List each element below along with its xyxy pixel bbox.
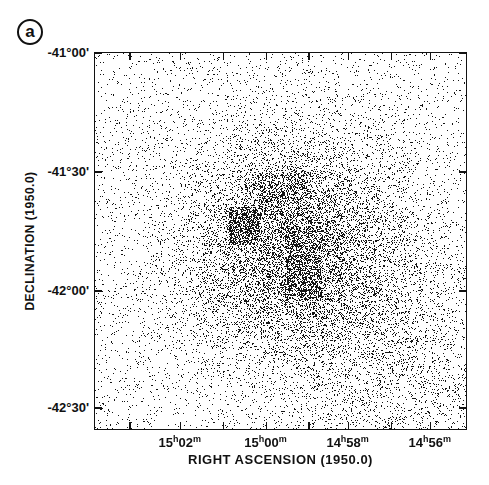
x-tick-mark	[430, 52, 432, 60]
y-tick-mark	[94, 171, 102, 173]
x-tick-mark	[348, 52, 350, 60]
x-tick-mark	[391, 422, 393, 430]
x-tick-mark	[308, 422, 310, 430]
y-tick-label: -41°30'	[47, 164, 89, 179]
x-tick-label: 15h00m	[244, 434, 286, 450]
x-tick-mark	[430, 422, 432, 430]
x-axis-label: RIGHT ASCENSION (1950.0)	[94, 452, 467, 467]
x-tick-mark	[266, 422, 268, 430]
x-tick-mark	[129, 52, 131, 60]
y-tick-mark	[94, 407, 102, 409]
x-tick-mark	[180, 52, 182, 60]
x-tick-mark	[223, 422, 225, 430]
y-tick-mark	[459, 52, 467, 54]
x-tick-mark	[266, 52, 268, 60]
y-tick-mark	[459, 290, 467, 292]
x-tick-label: 14h56m	[408, 434, 450, 450]
y-tick-label: -42°00'	[47, 283, 89, 298]
y-tick-mark	[459, 171, 467, 173]
point-source-density-map	[94, 52, 467, 430]
x-tick-mark	[308, 52, 310, 60]
panel-label: a	[17, 19, 43, 45]
x-tick-mark	[180, 422, 182, 430]
y-tick-mark	[94, 52, 102, 54]
x-tick-label: 14h58m	[326, 434, 368, 450]
y-tick-mark	[459, 407, 467, 409]
x-tick-label: 15h02m	[159, 434, 201, 450]
y-tick-label: -41°00'	[47, 45, 89, 60]
x-tick-mark	[129, 422, 131, 430]
y-tick-label: -42°30'	[47, 400, 89, 415]
x-tick-mark	[348, 422, 350, 430]
x-tick-mark	[223, 52, 225, 60]
y-axis-label: DECLINATION (1950.0)	[23, 171, 37, 310]
y-tick-mark	[94, 290, 102, 292]
x-tick-mark	[391, 52, 393, 60]
